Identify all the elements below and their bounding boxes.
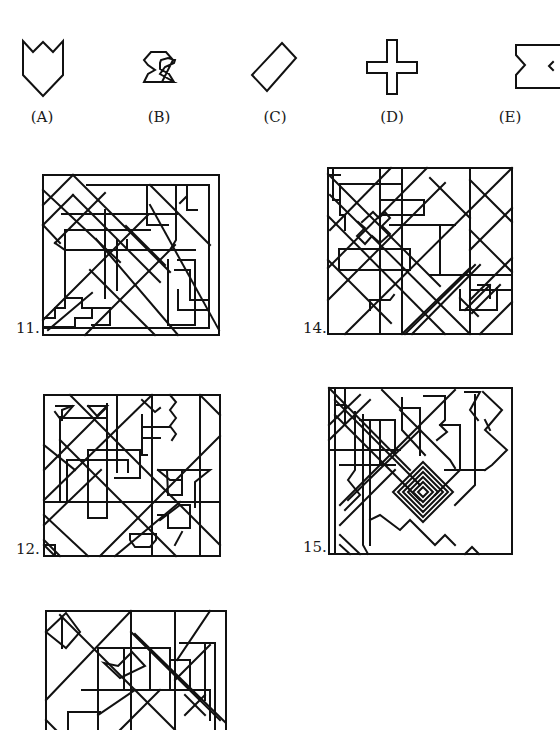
figure-13 bbox=[0, 0, 550, 730]
embedded-figure-13-drawing bbox=[0, 0, 550, 730]
